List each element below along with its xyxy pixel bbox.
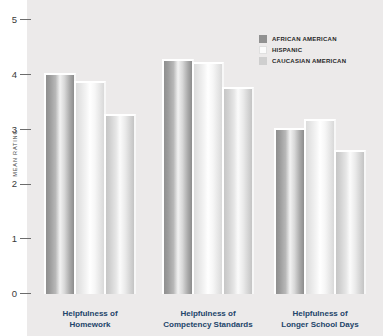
y-tick-mark — [20, 129, 31, 130]
bar-longerdays-caucasian-american — [336, 152, 364, 294]
legend-swatch-african-american — [259, 35, 267, 43]
y-tick-label-5: 5 — [8, 14, 17, 26]
y-tick-label-0: 0 — [8, 288, 17, 300]
bar-homework-african-american — [46, 75, 74, 294]
bar-homework-hispanic — [76, 83, 104, 294]
legend-swatch-caucasian-american — [259, 57, 267, 65]
y-tick-0: 0 — [8, 288, 36, 300]
legend-item-caucasian-american: CAUCASIAN AMERICAN — [259, 56, 371, 65]
bar-longerdays-hispanic — [306, 121, 334, 294]
bar-longerdays-african-american — [276, 130, 304, 294]
chart-legend: AFRICAN AMERICAN HISPANIC CAUCASIAN AMER… — [259, 34, 371, 67]
chart-figure: 5 4 3 2 1 0 MEAN RATING Helpfu — [0, 0, 383, 336]
y-tick-1: 1 — [8, 233, 36, 245]
y-tick-mark — [20, 238, 31, 239]
y-tick-5: 5 — [8, 14, 36, 26]
y-tick-label-4: 4 — [8, 69, 17, 81]
category-label-line2: Longer School Days — [260, 319, 380, 330]
y-axis-title: MEAN RATING — [12, 113, 18, 193]
bar-competency-caucasian-american — [224, 89, 252, 295]
bar-competency-hispanic — [194, 64, 222, 294]
category-label-longer-school-days: Helpfulness of Longer School Days — [260, 308, 380, 330]
category-label-line1: Helpfulness of — [148, 308, 268, 319]
y-tick-4: 4 — [8, 69, 36, 81]
category-label-line2: Homework — [30, 319, 150, 330]
category-label-line2: Competency Standards — [148, 319, 268, 330]
legend-swatch-hispanic — [259, 46, 267, 54]
bar-homework-caucasian-american — [106, 116, 134, 294]
y-tick-mark — [20, 74, 31, 75]
bar-competency-african-american — [164, 61, 192, 294]
y-tick-mark — [20, 184, 31, 185]
legend-item-hispanic: HISPANIC — [259, 45, 371, 54]
plot-area: 5 4 3 2 1 0 MEAN RATING Helpfu — [0, 0, 383, 336]
category-label-homework: Helpfulness of Homework — [30, 308, 150, 330]
y-tick-mark — [20, 293, 31, 294]
legend-label-hispanic: HISPANIC — [272, 47, 302, 53]
category-label-line1: Helpfulness of — [30, 308, 150, 319]
category-label-line1: Helpfulness of — [260, 308, 380, 319]
y-tick-label-1: 1 — [8, 233, 17, 245]
legend-label-caucasian-american: CAUCASIAN AMERICAN — [272, 58, 346, 64]
legend-label-african-american: AFRICAN AMERICAN — [272, 36, 337, 42]
category-label-competency-standards: Helpfulness of Competency Standards — [148, 308, 268, 330]
y-tick-mark — [20, 19, 31, 20]
legend-item-african-american: AFRICAN AMERICAN — [259, 34, 371, 43]
